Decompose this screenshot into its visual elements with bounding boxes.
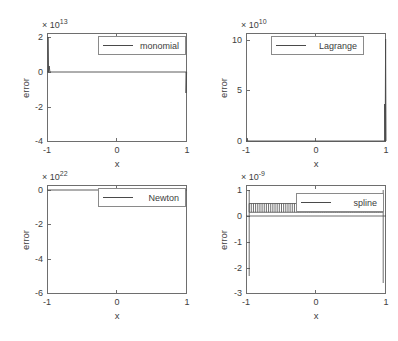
ytick-label: -2 xyxy=(226,263,242,273)
xtick-label: 0 xyxy=(313,145,318,155)
x-axis-label-lagrange: x xyxy=(314,158,319,169)
y-axis-label-monomial: error xyxy=(20,78,31,98)
ytick-label: 0 xyxy=(229,211,242,221)
xtick-label: -1 xyxy=(43,297,51,307)
ytick-label: -3 xyxy=(226,288,242,298)
ytick-mark xyxy=(48,107,51,108)
ytick-mark xyxy=(48,141,51,142)
ytick-mark xyxy=(247,216,250,217)
y-axis-label-spline: error xyxy=(218,230,229,250)
legend-label: Lagrange xyxy=(312,41,359,51)
y-axis-label-lagrange: error xyxy=(218,78,229,98)
ytick-label: -2 xyxy=(27,102,43,112)
xtick-mark xyxy=(315,290,316,293)
legend-label: spline xyxy=(337,198,379,208)
legend-lagrange[interactable]: Lagrange xyxy=(271,36,364,55)
y-exponent-label-spline: × 10-9 xyxy=(241,172,265,182)
ytick-mark xyxy=(247,141,250,142)
y-exponent-label-monomial: × 1013 xyxy=(42,20,68,30)
ytick-label: -6 xyxy=(27,288,43,298)
legend-monomial[interactable]: monomial xyxy=(98,36,186,55)
ytick-label: -2 xyxy=(27,219,43,229)
x-axis-label-spline: x xyxy=(314,310,319,321)
ytick-label: 0 xyxy=(30,185,43,195)
x-axis-label-newton: x xyxy=(115,310,120,321)
legend-spline[interactable]: spline xyxy=(296,193,384,212)
xtick-label: 1 xyxy=(383,297,388,307)
legend-line-sample xyxy=(276,45,306,46)
xtick-label: 0 xyxy=(114,297,119,307)
xtick-label: 0 xyxy=(313,297,318,307)
ytick-label: 0 xyxy=(30,67,43,77)
ytick-mark xyxy=(48,37,51,38)
xtick-mark xyxy=(315,138,316,141)
ytick-mark xyxy=(247,293,250,294)
x-axis-label-monomial: x xyxy=(115,158,120,169)
ytick-mark xyxy=(247,40,250,41)
legend-newton[interactable]: Newton xyxy=(98,188,186,207)
ytick-mark xyxy=(247,268,250,269)
legend-line-sample xyxy=(103,45,133,46)
ytick-mark xyxy=(247,242,250,243)
ytick-mark xyxy=(48,293,51,294)
ytick-mark xyxy=(247,90,250,91)
xtick-label: 1 xyxy=(383,145,388,155)
y-exponent-label-lagrange: × 1010 xyxy=(241,20,267,30)
xtick-label: 0 xyxy=(114,145,119,155)
y-exponent-label-newton: × 1022 xyxy=(42,172,68,182)
ytick-label: 10 xyxy=(222,35,242,45)
xtick-mark xyxy=(116,290,117,293)
xtick-label: -1 xyxy=(43,145,51,155)
ytick-mark xyxy=(48,190,51,191)
ytick-mark xyxy=(247,190,250,191)
legend-label: Newton xyxy=(139,193,181,203)
xtick-label: -1 xyxy=(242,297,250,307)
xtick-mark-top xyxy=(315,186,316,189)
ytick-label: 0 xyxy=(222,136,242,146)
ytick-mark xyxy=(48,224,51,225)
ytick-mark xyxy=(48,72,51,73)
legend-line-sample xyxy=(103,197,133,198)
xtick-label: 1 xyxy=(184,145,189,155)
ytick-label: 2 xyxy=(30,32,43,42)
matlab-figure: × 1013 2 0 -2 -4 -1 0 1 x error xyxy=(0,0,398,341)
xtick-label: -1 xyxy=(242,145,250,155)
legend-line-sample xyxy=(301,202,331,203)
ytick-label: 1 xyxy=(229,185,242,195)
ytick-label: -4 xyxy=(27,136,43,146)
y-axis-label-newton: error xyxy=(20,230,31,250)
xtick-label: 1 xyxy=(184,297,189,307)
legend-label: monomial xyxy=(139,41,181,51)
ytick-mark xyxy=(48,259,51,260)
xtick-mark xyxy=(116,138,117,141)
ytick-label: -4 xyxy=(27,254,43,264)
